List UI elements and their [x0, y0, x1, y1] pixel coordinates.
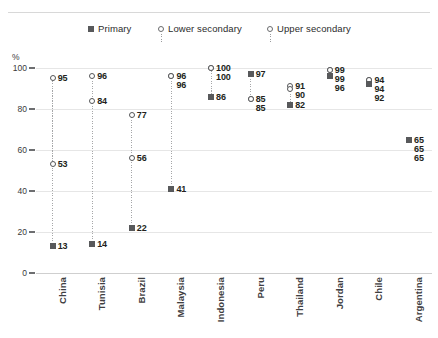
primary-point — [129, 225, 135, 231]
connector-stem — [171, 76, 172, 189]
primary-point — [287, 102, 293, 108]
lower-secondary-point — [89, 98, 95, 104]
lower-secondary-point — [248, 96, 254, 102]
x-axis-label-brazil: Brazil — [136, 277, 147, 303]
point-value-label: 41 — [176, 184, 186, 194]
primary-point — [327, 73, 333, 79]
chart-legend: Primary Lower secondary Upper secondary — [0, 23, 438, 39]
y-axis-tick-label: 20 — [18, 227, 27, 237]
point-value-label: 96 — [176, 80, 186, 90]
primary-point — [50, 243, 56, 249]
point-value-label: 84 — [97, 96, 107, 106]
x-axis-label-chile: Chile — [373, 277, 384, 301]
point-value-label: 65 — [414, 153, 424, 163]
point-value-label: 14 — [97, 239, 107, 249]
point-value-label: 82 — [295, 100, 305, 110]
y-axis-tick-label: 0 — [22, 268, 27, 278]
upper-secondary-marker-icon — [267, 26, 273, 32]
lower-secondary-marker-icon — [158, 26, 164, 32]
upper-secondary-point — [50, 75, 56, 81]
primary-point — [168, 186, 174, 192]
gridline — [36, 109, 432, 110]
x-axis-label-china: China — [57, 277, 68, 304]
point-value-label: 96 — [335, 83, 345, 93]
point-value-label: 85 — [256, 103, 266, 113]
primary-marker-icon — [88, 26, 94, 32]
x-axis-label-indonesia: Indonesia — [215, 277, 226, 322]
legend-item-upper-secondary: Upper secondary — [267, 23, 351, 34]
point-value-label: 77 — [137, 110, 147, 120]
lower-secondary-stem-icon — [161, 34, 162, 44]
connector-stem — [211, 68, 212, 97]
primary-point — [208, 94, 214, 100]
chart-figure: Primary Lower secondary Upper secondary … — [0, 0, 438, 338]
y-axis-tick-mark — [29, 190, 35, 192]
lower-secondary-point — [327, 67, 333, 73]
x-axis-label-thailand: Thailand — [294, 277, 305, 317]
legend-label-upper-secondary: Upper secondary — [277, 23, 351, 34]
legend-label-primary: Primary — [98, 23, 131, 34]
point-value-label: 86 — [216, 92, 226, 102]
y-axis-tick-mark — [29, 108, 35, 110]
point-value-label: 13 — [58, 241, 68, 251]
x-axis-label-tunisia: Tunisia — [96, 277, 107, 310]
point-value-label: 97 — [256, 69, 266, 79]
lower-secondary-point — [129, 155, 135, 161]
lower-secondary-point — [287, 86, 293, 92]
lower-secondary-point — [208, 65, 214, 71]
legend-item-primary: Primary — [88, 23, 131, 34]
primary-point — [406, 137, 412, 143]
upper-secondary-point — [129, 112, 135, 118]
y-axis-tick-mark — [29, 67, 35, 69]
x-axis-label-peru: Peru — [255, 277, 266, 299]
legend-item-lower-secondary: Lower secondary — [158, 23, 242, 34]
lower-secondary-point — [50, 161, 56, 167]
x-axis-label-jordan: Jordan — [334, 277, 345, 309]
primary-point — [248, 71, 254, 77]
x-axis-labels: ChinaTunisiaBrazilMalaysiaIndonesiaPeruT… — [36, 273, 432, 338]
y-axis-tick-mark — [29, 149, 35, 151]
gridline — [36, 232, 432, 233]
primary-point — [366, 81, 372, 87]
gridline — [36, 150, 432, 151]
point-value-label: 96 — [97, 71, 107, 81]
point-value-label: 56 — [137, 153, 147, 163]
primary-point — [89, 241, 95, 247]
x-axis-label-malaysia: Malaysia — [175, 277, 186, 317]
gridline — [36, 191, 432, 192]
gridline — [36, 68, 432, 69]
lower-secondary-point — [168, 73, 174, 79]
point-value-label: 53 — [58, 159, 68, 169]
point-value-label: 92 — [374, 93, 384, 103]
y-axis-unit-label: % — [12, 52, 20, 62]
connector-stem — [131, 115, 132, 228]
y-axis-tick-label: 60 — [18, 145, 27, 155]
y-axis-tick-label: 100 — [13, 63, 27, 73]
point-value-label: 22 — [137, 223, 147, 233]
point-value-label: 100 — [216, 72, 231, 82]
y-axis-tick-label: 40 — [18, 186, 27, 196]
y-axis-tick-mark — [29, 272, 35, 274]
legend-label-lower-secondary: Lower secondary — [168, 23, 242, 34]
y-axis-tick-mark — [29, 231, 35, 233]
plot-area: 0204060801009553139684147756229696411001… — [36, 68, 432, 273]
point-value-label: 95 — [58, 73, 68, 83]
upper-secondary-point — [89, 73, 95, 79]
x-axis-label-argentina: Argentina — [413, 277, 424, 322]
y-axis-tick-label: 80 — [18, 104, 27, 114]
upper-secondary-stem-icon — [270, 34, 271, 44]
top-divider-rule — [8, 12, 430, 13]
